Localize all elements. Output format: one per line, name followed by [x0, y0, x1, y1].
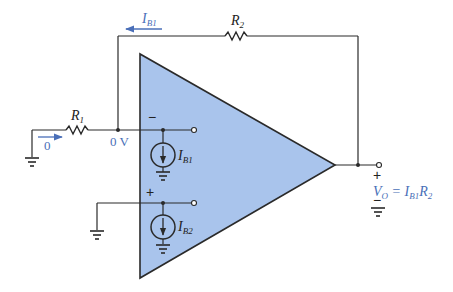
r1-label: R1	[70, 108, 84, 125]
output-minus-sign: −	[373, 192, 381, 208]
circuit-diagram: R2 IB1 R1 0 0 V − IB1	[0, 0, 453, 292]
inverting-terminal	[192, 128, 197, 133]
input-current-label: 0	[44, 138, 51, 153]
ground-output-icon	[371, 208, 385, 216]
output-equation: VO = IB1R2	[373, 184, 433, 201]
node-voltage-label: 0 V	[110, 134, 130, 149]
resistor-r1	[66, 126, 88, 134]
r2-label: R2	[230, 13, 245, 30]
noninverting-sign: +	[146, 184, 154, 200]
noninverting-terminal	[192, 201, 197, 206]
output-node	[356, 163, 360, 167]
ground-input-icon	[25, 158, 39, 166]
feedback-current-label: IB1	[141, 11, 157, 28]
summing-node	[116, 128, 120, 132]
inverting-sign: −	[148, 109, 156, 125]
ground-noninverting-icon	[90, 231, 104, 239]
output-plus-sign: +	[373, 167, 381, 183]
resistor-r2	[225, 32, 247, 40]
